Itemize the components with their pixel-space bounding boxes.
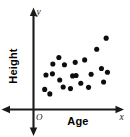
origin-label: O: [36, 112, 43, 122]
data-point: [47, 91, 52, 96]
data-point: [89, 72, 94, 77]
data-point: [43, 73, 48, 78]
x-axis-title: Age: [67, 115, 88, 127]
data-point: [50, 71, 55, 76]
data-point: [101, 79, 106, 84]
data-point: [104, 36, 109, 41]
data-point: [50, 61, 55, 66]
data-point: [42, 87, 47, 92]
data-point: [62, 62, 67, 67]
data-point: [94, 47, 99, 52]
y-axis-letter: y: [36, 7, 42, 17]
data-points-layer: [42, 36, 110, 97]
data-point: [57, 77, 62, 82]
data-point: [86, 85, 91, 90]
scatter-plot-canvas: y x O Age Height: [0, 0, 130, 137]
data-point: [78, 81, 83, 86]
x-axis-left-arrow-icon: [2, 106, 11, 113]
y-axis-bottom-arrow-icon: [30, 128, 37, 137]
data-point: [82, 57, 87, 62]
data-point: [105, 70, 110, 75]
data-point: [99, 66, 104, 71]
data-point: [73, 60, 78, 65]
x-axis-letter: x: [119, 112, 125, 122]
data-point: [61, 84, 66, 89]
data-point: [74, 73, 79, 78]
y-axis-title: Height: [7, 48, 19, 84]
data-point: [56, 55, 61, 60]
scatter-plot-figure: y x O Age Height: [0, 0, 130, 137]
data-point: [68, 86, 73, 91]
